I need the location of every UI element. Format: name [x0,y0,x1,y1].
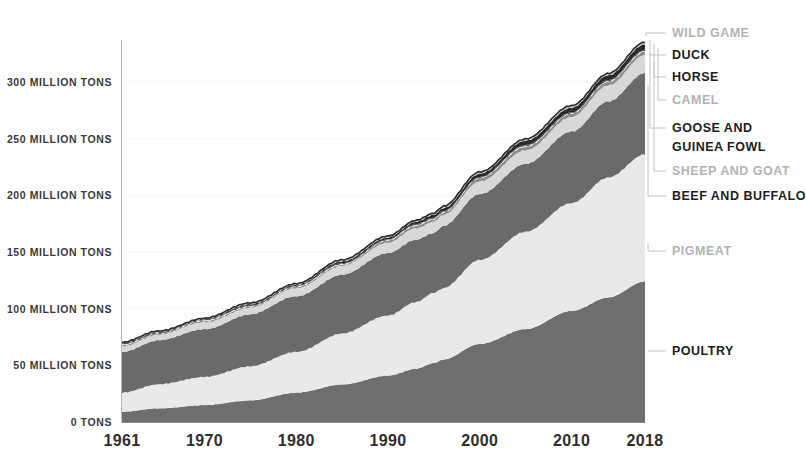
legend-item-pigmeat: PIGMEAT [672,244,732,258]
y-axis-tick-label: 250 MILLION TONS [0,133,112,145]
legend-item-horse: HORSE [672,70,719,84]
y-axis-tick-label: 100 MILLION TONS [0,303,112,315]
y-axis-tick-label: 200 MILLION TONS [0,189,112,201]
legend-item-guinea-fowl: GUINEA FOWL [672,140,766,154]
legend-item-duck: DUCK [672,48,710,62]
x-axis-tick-label: 1990 [369,432,406,450]
y-axis-tick-label: 50 MILLION TONS [0,359,112,371]
x-axis-tick-label: 1970 [186,432,223,450]
legend-item-sheep-and-goat: SHEEP AND GOAT [672,164,790,178]
y-axis-tick-label: 0 TONS [0,416,112,428]
legend-item-poultry: POULTRY [672,344,734,358]
x-axis-tick-label: 1961 [103,432,140,450]
legend-leader-line [658,48,666,100]
x-axis-tick-label: 2000 [461,432,498,450]
x-axis-tick-label: 1980 [278,432,315,450]
legend-item-beef-and-buffalo: BEEF AND BUFFALO [672,189,806,203]
x-axis-tick-label: 2010 [553,432,590,450]
legend-leader-line [646,33,666,36]
legend-item-goose-and: GOOSE AND [672,121,752,135]
legend-leader-line [648,243,666,251]
legend-item-wild-game: WILD GAME [672,26,749,40]
legend-leader-line [654,62,666,171]
legend-item-camel: CAMEL [672,93,719,107]
y-axis-tick-label: 300 MILLION TONS [0,76,112,88]
legend-leader-line [654,44,666,77]
legend-leader-line [648,85,666,196]
y-axis-tick-label: 150 MILLION TONS [0,246,112,258]
x-axis-tick-label: 2018 [626,432,663,450]
